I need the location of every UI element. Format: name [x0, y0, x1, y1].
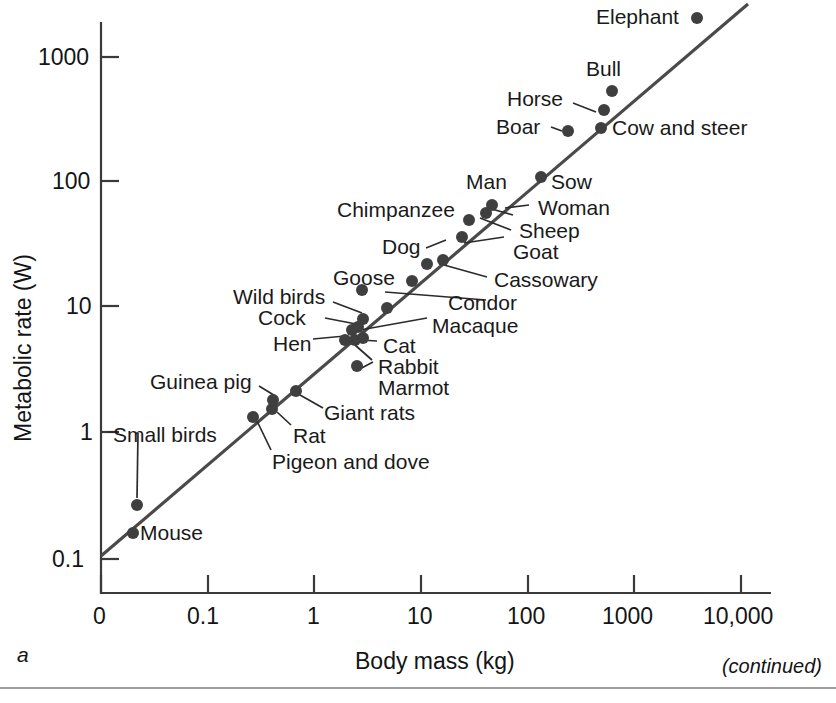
annotation-guinea-pig: Guinea pig: [150, 371, 252, 392]
chart-canvas: [0, 0, 836, 703]
point-elephant: [691, 12, 703, 24]
point-sheep: [456, 231, 468, 243]
annotation-small-birds: Small birds: [113, 424, 217, 445]
point-guinea-pig: [267, 394, 279, 406]
annotation-cassowary: Cassowary: [494, 269, 598, 290]
continued-note: (continued): [722, 655, 822, 678]
y-tick-label-1: 1: [80, 421, 93, 444]
annotation-marmot: Marmot: [378, 377, 449, 398]
annotation-chimpanzee: Chimpanzee: [337, 199, 455, 220]
y-axis-ticks: [101, 57, 119, 559]
annotation-elephant: Elephant: [596, 6, 679, 27]
point-pigeon-and-dove: [247, 411, 259, 423]
y-tick-label-0.1: 0.1: [52, 548, 84, 571]
point-man: [486, 199, 498, 211]
point-marmot: [351, 360, 363, 372]
annotation-woman: Woman: [538, 197, 610, 218]
point-bull: [606, 85, 618, 97]
y-tick-label-100: 100: [52, 170, 90, 193]
axis-lines: [101, 22, 771, 593]
annotation-dog: Dog: [382, 236, 421, 257]
x-tick-label-100: 100: [507, 605, 545, 628]
x-tick-label-0.1: 0.1: [187, 605, 219, 628]
annotation-pigeon-and-dove: Pigeon and dove: [272, 451, 430, 472]
annotation-man: Man: [466, 171, 507, 192]
panel-letter: a: [17, 643, 29, 667]
annotation-cat: Cat: [383, 335, 416, 356]
point-horse: [598, 104, 610, 116]
annotation-bull: Bull: [586, 58, 621, 79]
figure-panel: 1000 100 10 1 0.1 0 0.1 1 10 100 1000 10…: [0, 0, 836, 703]
annotation-goat: Goat: [513, 241, 559, 262]
point-small-birds: [131, 499, 143, 511]
x-tick-label-1000: 1000: [602, 605, 653, 628]
annotation-mouse: Mouse: [140, 522, 203, 543]
annotation-condor: Condor: [448, 292, 517, 313]
x-tick-label-10000: 10,000: [703, 605, 773, 628]
y-axis-title: Metabolic rate (W): [10, 254, 37, 442]
point-wild-birds: [346, 324, 358, 336]
point-macaque: [357, 313, 369, 325]
y-tick-label-1000: 1000: [38, 46, 89, 69]
point-cow-and-steer: [595, 122, 607, 134]
trend-line: [101, 4, 748, 556]
point-boar: [562, 125, 574, 137]
y-tick-label-10: 10: [66, 295, 92, 318]
point-dog: [421, 258, 433, 270]
point-rabbit: [357, 332, 369, 344]
x-tick-label-1: 1: [307, 605, 320, 628]
annotation-giant-rats: Giant rats: [324, 402, 415, 423]
x-tick-label-0: 0: [93, 605, 106, 628]
point-mouse: [127, 527, 139, 539]
x-tick-label-10: 10: [407, 605, 433, 628]
annotation-horse: Horse: [507, 88, 563, 109]
point-condor: [381, 302, 393, 314]
point-sow: [535, 171, 547, 183]
annotation-hen: Hen: [273, 333, 312, 354]
annotation-boar: Boar: [496, 116, 540, 137]
annotation-sheep: Sheep: [519, 220, 580, 241]
annotation-sow: Sow: [551, 171, 592, 192]
annotation-macaque: Macaque: [432, 315, 518, 336]
point-giant-rats: [290, 385, 302, 397]
point-chimpanzee: [463, 214, 475, 226]
annotation-wild-birds: Wild birds: [233, 286, 325, 307]
x-axis-ticks: [101, 575, 741, 593]
annotation-goose: Goose: [333, 267, 395, 288]
point-goat: [437, 254, 449, 266]
annotation-cow-and-steer: Cow and steer: [612, 117, 747, 138]
annotation-cock: Cock: [258, 307, 306, 328]
x-axis-title: Body mass (kg): [355, 648, 515, 675]
point-cassowary: [406, 275, 418, 287]
annotation-rabbit: Rabbit: [378, 356, 439, 377]
annotation-rat: Rat: [293, 425, 326, 446]
y-axis-title-wrap: Metabolic rate (W): [10, 180, 40, 440]
